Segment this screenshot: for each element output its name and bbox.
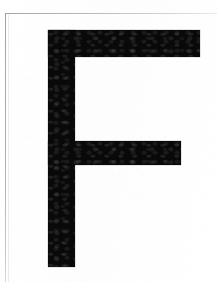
letter-f-top-arm (48, 30, 200, 57)
letter-f-middle-arm (48, 141, 181, 165)
ink-mottle-texture (48, 141, 181, 165)
ink-mottle-texture (48, 30, 200, 57)
scanned-page (0, 0, 217, 282)
frame-left-rule (5, 13, 6, 282)
frame-left-ghost-rule (8, 15, 9, 282)
frame-top-rule (5, 13, 217, 14)
